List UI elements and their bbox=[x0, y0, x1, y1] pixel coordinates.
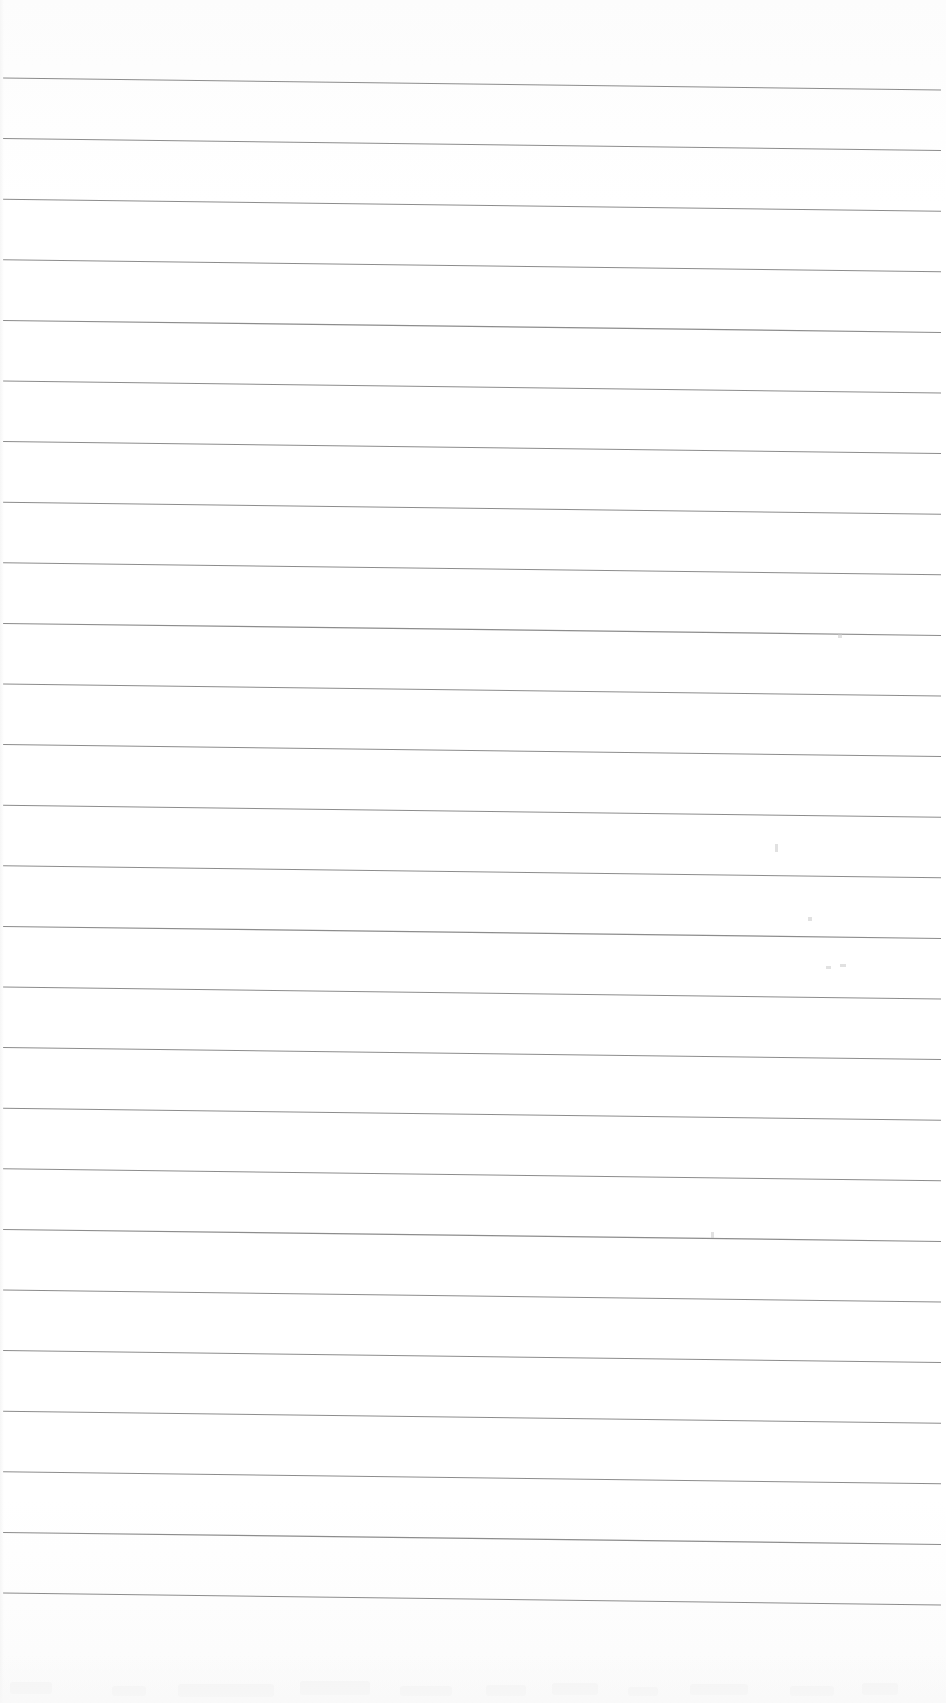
rule-line-16 bbox=[3, 987, 941, 999]
smudge-e bbox=[400, 1686, 452, 1696]
rule-line-2 bbox=[3, 139, 941, 151]
rule-line-23 bbox=[3, 1411, 941, 1423]
speck-lower-center bbox=[711, 1232, 714, 1238]
rule-line-24 bbox=[3, 1472, 941, 1484]
smudge-i bbox=[690, 1684, 748, 1695]
smudge-j bbox=[790, 1686, 834, 1696]
rule-line-17 bbox=[3, 1048, 941, 1060]
speck-right-pair-b bbox=[840, 964, 846, 967]
rule-line-11 bbox=[3, 684, 941, 696]
ruled-lines-layer bbox=[0, 0, 946, 1703]
smudge-c bbox=[178, 1684, 274, 1697]
smudge-h bbox=[628, 1687, 658, 1696]
ruled-lines-svg bbox=[0, 0, 946, 1703]
rule-line-6 bbox=[3, 381, 941, 393]
rule-line-20 bbox=[3, 1229, 941, 1241]
smudge-b bbox=[112, 1686, 146, 1696]
speck-upper-right bbox=[838, 633, 842, 638]
speck-mid-right-2 bbox=[808, 917, 812, 921]
speck-right-pair-a bbox=[826, 966, 831, 969]
smudge-f bbox=[486, 1685, 526, 1696]
rule-line-12 bbox=[3, 745, 941, 757]
rule-line-4 bbox=[3, 260, 941, 272]
rule-line-18 bbox=[3, 1108, 941, 1120]
smudge-k bbox=[862, 1683, 898, 1695]
rule-line-21 bbox=[3, 1290, 941, 1302]
rule-line-13 bbox=[3, 805, 941, 817]
rule-line-8 bbox=[3, 502, 941, 514]
rule-line-19 bbox=[3, 1169, 941, 1181]
speck-mid-right bbox=[775, 844, 778, 852]
smudge-g bbox=[552, 1683, 598, 1695]
rule-line-25 bbox=[3, 1532, 941, 1544]
rule-line-10 bbox=[3, 623, 941, 635]
rule-line-15 bbox=[3, 926, 941, 938]
smudge-d bbox=[300, 1681, 370, 1695]
rule-line-9 bbox=[3, 563, 941, 575]
rule-line-5 bbox=[3, 320, 941, 332]
rule-line-7 bbox=[3, 442, 941, 454]
rule-line-1 bbox=[3, 78, 941, 90]
rule-line-22 bbox=[3, 1351, 941, 1363]
rule-lines-group bbox=[3, 78, 941, 1605]
rule-line-3 bbox=[3, 199, 941, 211]
smudge-a bbox=[10, 1682, 52, 1694]
rule-line-14 bbox=[3, 866, 941, 878]
rule-line-26 bbox=[3, 1593, 941, 1605]
bottom-smudges-group bbox=[10, 1681, 898, 1697]
scanned-page: Scanned blank ruled notebook page with 2… bbox=[0, 0, 946, 1703]
